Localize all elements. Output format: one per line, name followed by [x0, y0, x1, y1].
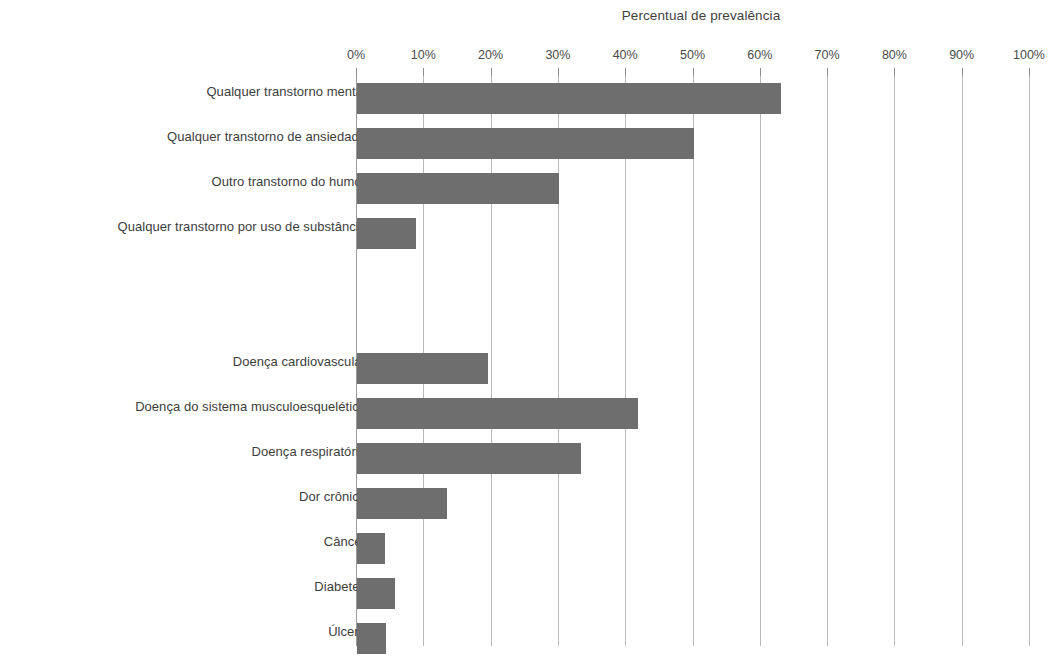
- category-label: Qualquer transtorno mental: [36, 84, 366, 99]
- category-label: Doença cardiovascular: [36, 354, 366, 369]
- bar: [357, 173, 559, 204]
- bar: [357, 353, 488, 384]
- x-tick-label: 50%: [680, 48, 705, 62]
- category-label: Diabetes: [36, 579, 366, 594]
- bar-row: Qualquer transtorno mental: [0, 76, 1056, 121]
- category-label: Outro transtorno do humor: [36, 174, 366, 189]
- bar: [357, 578, 395, 609]
- category-label: Úlcera: [36, 624, 366, 639]
- bar-row: Dor crônica: [0, 481, 1056, 526]
- bar-row: Diabetes: [0, 571, 1056, 616]
- x-tick-label: 80%: [882, 48, 907, 62]
- bar: [357, 443, 581, 474]
- category-label: Doença respiratória: [36, 444, 366, 459]
- bar-row: Doença respiratória: [0, 436, 1056, 481]
- x-tick-label: 90%: [949, 48, 974, 62]
- bar: [357, 83, 781, 114]
- x-tick-label: 60%: [747, 48, 772, 62]
- bar-row: Outro transtorno do humor: [0, 166, 1056, 211]
- bar-row: Doença cardiovascular: [0, 346, 1056, 391]
- x-tick-label: 70%: [815, 48, 840, 62]
- x-tick-label: 100%: [1013, 48, 1045, 62]
- category-label: Doença do sistema musculoesquelético: [36, 399, 366, 414]
- x-tick-label: 20%: [478, 48, 503, 62]
- chart-title: Percentual de prevalência: [356, 8, 1046, 23]
- bar-row: Doença do sistema musculoesquelético: [0, 391, 1056, 436]
- x-tick-label: 40%: [613, 48, 638, 62]
- category-label: Câncer: [36, 534, 366, 549]
- bar-row: Qualquer transtorno de ansiedade: [0, 121, 1056, 166]
- bar-row-spacer: [0, 256, 1056, 301]
- bar-row: Qualquer transtorno por uso de substânci…: [0, 211, 1056, 256]
- category-label: Qualquer transtorno por uso de substânci…: [36, 219, 366, 234]
- chart-figure: Percentual de prevalência 0%10%20%30%40%…: [0, 0, 1056, 670]
- category-label: Qualquer transtorno de ansiedade: [36, 129, 366, 144]
- bar: [357, 398, 638, 429]
- bar: [357, 128, 694, 159]
- category-label: Dor crônica: [36, 489, 366, 504]
- bar: [357, 623, 386, 654]
- x-tick-label: 30%: [545, 48, 570, 62]
- bar: [357, 488, 447, 519]
- x-tick-label: 10%: [411, 48, 436, 62]
- bar-rows: Qualquer transtorno mentalQualquer trans…: [0, 76, 1056, 646]
- bar-row: Câncer: [0, 526, 1056, 571]
- x-axis-tick-labels: 0%10%20%30%40%50%60%70%80%90%100%: [0, 48, 1056, 66]
- bar: [357, 218, 416, 249]
- bar-row-spacer: [0, 301, 1056, 346]
- x-tick-label: 0%: [347, 48, 365, 62]
- bar-row: Úlcera: [0, 616, 1056, 661]
- bar: [357, 533, 385, 564]
